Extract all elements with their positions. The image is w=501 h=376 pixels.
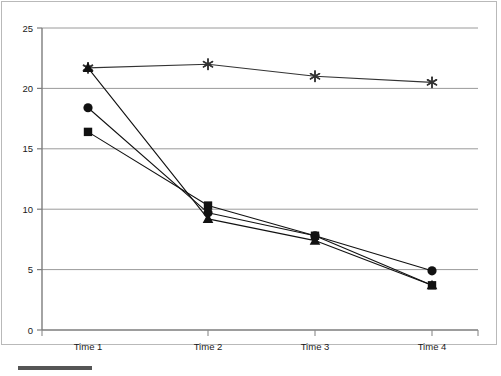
series-line-1 xyxy=(88,64,432,82)
y-axis-tick-labels: 2520151050 xyxy=(22,23,33,336)
chart-figure: 2520151050 Time 1Time 2Time 3Time 4 xyxy=(0,0,501,376)
series-line-3 xyxy=(88,132,432,285)
series-markers xyxy=(83,59,438,289)
series-lines xyxy=(88,64,432,285)
y-tick-label-5: 5 xyxy=(28,264,33,275)
gridlines xyxy=(42,28,478,270)
y-tick-label-10: 10 xyxy=(22,204,33,215)
x-tick-label-1: Time 1 xyxy=(74,341,103,352)
y-tick-label-15: 15 xyxy=(22,143,33,154)
marker-square-t1 xyxy=(84,128,92,136)
y-tick-label-0: 0 xyxy=(28,325,33,336)
footer-rule xyxy=(18,366,92,370)
marker-circle-t4 xyxy=(427,266,436,275)
x-axis-tick-labels: Time 1Time 2Time 3Time 4 xyxy=(74,341,447,352)
y-tick-label-20: 20 xyxy=(22,83,33,94)
x-tick-label-3: Time 3 xyxy=(301,341,330,352)
axis-ticks xyxy=(37,28,478,336)
line-chart: 2520151050 Time 1Time 2Time 3Time 4 xyxy=(0,0,501,376)
series-line-4 xyxy=(88,68,432,285)
marker-circle-t1 xyxy=(83,103,92,112)
x-tick-label-2: Time 2 xyxy=(194,341,223,352)
y-tick-label-25: 25 xyxy=(22,23,33,34)
marker-triangle-t1 xyxy=(83,62,94,72)
axes xyxy=(42,28,478,330)
x-tick-label-4: Time 4 xyxy=(418,341,447,352)
marker-square-t2 xyxy=(204,201,212,209)
